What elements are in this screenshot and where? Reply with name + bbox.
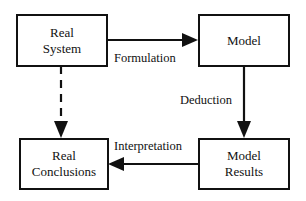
node-real-system: Real System xyxy=(16,14,108,67)
deduction-arrow xyxy=(237,66,251,138)
formulation-label: Formulation xyxy=(114,51,176,65)
node-model-results-line1: Model xyxy=(225,148,263,164)
node-real-conclusions-line2: Conclusions xyxy=(32,164,96,180)
interpretation-label: Interpretation xyxy=(114,139,182,153)
node-real-system-line2: System xyxy=(43,41,81,57)
node-real-system-line1: Real xyxy=(43,25,81,41)
formulation-arrow xyxy=(107,33,198,47)
node-model-line1: Model xyxy=(227,33,261,49)
dashed-arrow xyxy=(54,66,68,138)
node-model-results-line2: Results xyxy=(225,164,263,180)
node-real-conclusions: Real Conclusions xyxy=(19,138,109,190)
node-model-results: Model Results xyxy=(198,138,290,190)
node-model: Model xyxy=(198,14,290,67)
interpretation-arrow xyxy=(108,157,198,171)
deduction-label: Deduction xyxy=(180,93,232,107)
node-real-conclusions-line1: Real xyxy=(32,148,96,164)
